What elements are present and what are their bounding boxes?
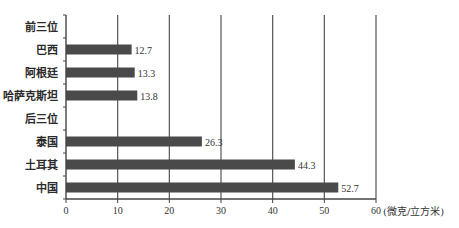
x-tick-labels: 0102030405060 bbox=[64, 205, 382, 216]
bar-value-label: 13.3 bbox=[138, 68, 156, 79]
bar bbox=[66, 45, 132, 55]
bars: 12.713.313.826.344.352.7 bbox=[66, 45, 359, 194]
category-label: 土耳其 bbox=[25, 158, 58, 172]
x-axis-unit-label: (微克/立方米) bbox=[383, 205, 444, 217]
category-label: 后三位 bbox=[25, 112, 58, 126]
category-label: 中国 bbox=[36, 181, 58, 195]
category-label: 阿根廷 bbox=[25, 66, 59, 80]
axes bbox=[63, 15, 376, 203]
bar bbox=[66, 91, 137, 101]
bar-value-label: 44.3 bbox=[298, 160, 316, 171]
category-labels: 前三位巴西阿根廷哈萨克斯坦后三位泰国土耳其中国 bbox=[3, 20, 59, 195]
bar-value-label: 13.8 bbox=[140, 91, 158, 102]
category-label: 前三位 bbox=[25, 20, 58, 34]
x-tick-label: 10 bbox=[113, 205, 123, 216]
vertical-gridlines bbox=[118, 15, 376, 199]
pm-concentration-bar-chart: 12.713.313.826.344.352.7 前三位巴西阿根廷哈萨克斯坦后三… bbox=[0, 0, 459, 228]
category-label: 哈萨克斯坦 bbox=[3, 89, 58, 103]
bar bbox=[66, 160, 295, 170]
category-label: 泰国 bbox=[35, 135, 58, 149]
category-label: 巴西 bbox=[36, 44, 58, 57]
bar bbox=[66, 137, 202, 147]
x-tick-label: 0 bbox=[64, 205, 69, 216]
bar-value-label: 26.3 bbox=[205, 137, 223, 148]
bar bbox=[66, 68, 135, 78]
x-tick-label: 50 bbox=[319, 205, 329, 216]
bar bbox=[66, 183, 338, 193]
x-tick-label: 60 bbox=[371, 205, 381, 216]
x-tick-label: 30 bbox=[216, 205, 226, 216]
bar-value-label: 12.7 bbox=[135, 45, 153, 56]
bar-value-label: 52.7 bbox=[341, 183, 359, 194]
x-tick-label: 40 bbox=[268, 205, 278, 216]
x-tick-label: 20 bbox=[164, 205, 174, 216]
